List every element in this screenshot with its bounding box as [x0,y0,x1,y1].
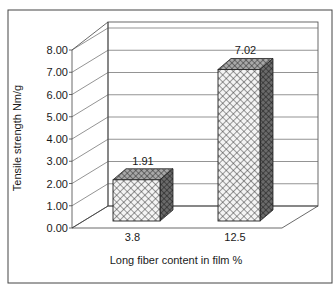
plot-area [72,22,318,228]
y-tick-label: 8.00 [47,44,68,56]
x-axis-label: Long fiber content in film % [110,254,243,266]
y-axis: 0.001.002.003.004.005.006.007.008.00 [47,44,72,234]
y-tick-label: 3.00 [47,155,68,167]
y-tick-label: 4.00 [47,133,68,145]
y-tick-label: 1.00 [47,200,68,212]
data-label: 7.02 [235,44,256,56]
y-tick-label: 5.00 [47,111,68,123]
y-tick-label: 2.00 [47,178,68,190]
y-tick-label: 0.00 [47,222,68,234]
y-tick-label: 6.00 [47,89,68,101]
bar-chart: 0.001.002.003.004.005.006.007.008.00 1.9… [0,0,334,295]
y-axis-label: Tensile strength Nm/g [11,85,23,191]
bar-12.5: 7.02 [218,44,273,221]
x-category-label: 12.5 [224,231,245,243]
x-category-label: 3.8 [125,231,140,243]
y-tick-label: 7.00 [47,66,68,78]
x-axis: 3.812.5 [125,231,246,243]
data-label: 1.91 [132,155,153,167]
